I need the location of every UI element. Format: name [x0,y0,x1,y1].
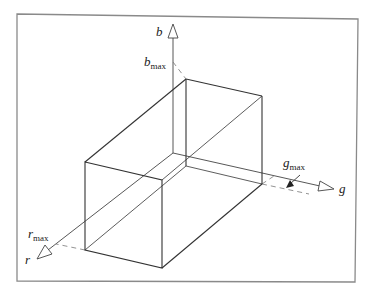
b-axis-arrowhead-icon [168,24,178,38]
b-max-label: bmax [144,54,166,71]
g-max-pointer [286,175,300,188]
b-max-label-sub: max [151,61,167,71]
g-max-label-sub: max [290,162,306,172]
r-max-label-sub: max [33,233,49,243]
b-axis [168,24,178,153]
r-axis-label: r [25,252,31,267]
max-projection-lines [56,62,309,250]
g-axis-label: g [339,181,346,196]
r-axis-arrowhead-icon [37,245,52,259]
g-axis [173,153,334,191]
g-max-label: gmax [283,155,305,172]
rgb-cube-diagram: b bmax g gmax r rmax [0,0,371,293]
diagram-frame [17,14,358,282]
g-axis-arrowhead-icon [318,181,334,191]
b-axis-label: b [156,24,163,39]
color-cube [85,79,262,268]
r-max-label: rmax [28,226,49,243]
r-axis [37,153,173,259]
